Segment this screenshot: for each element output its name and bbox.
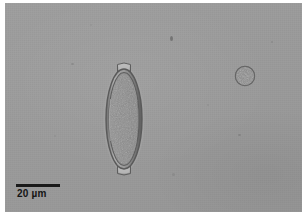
speck xyxy=(90,24,92,26)
speck xyxy=(238,134,241,136)
micrograph-image: 20 µm xyxy=(0,0,308,220)
scale-bar-line xyxy=(16,184,60,187)
microscope-field-of-view: 20 µm xyxy=(5,3,302,212)
speck xyxy=(71,63,74,65)
scale-bar: 20 µm xyxy=(15,184,63,200)
trichuris-egg-shape xyxy=(101,61,147,177)
trichuris-egg xyxy=(101,61,147,177)
scale-bar-label: 20 µm xyxy=(15,188,63,200)
round-debris-shape xyxy=(233,64,257,88)
speck xyxy=(54,135,56,137)
speck xyxy=(170,36,173,41)
speck xyxy=(207,104,209,106)
round-debris xyxy=(233,64,257,88)
speck xyxy=(271,41,273,43)
optical-grain-texture xyxy=(5,3,302,212)
speck xyxy=(172,173,175,176)
